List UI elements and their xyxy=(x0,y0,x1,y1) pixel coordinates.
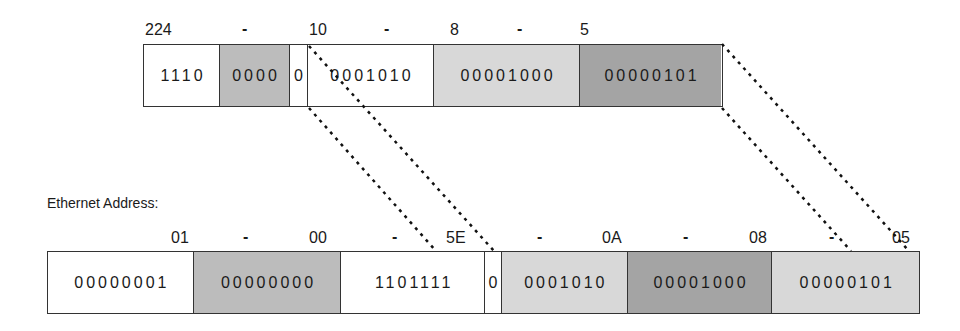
mapping-line-right-end xyxy=(722,44,909,251)
mapping-line-left-start xyxy=(309,108,436,251)
mapping-line-right-start xyxy=(722,108,851,251)
mapping-lines xyxy=(0,0,960,331)
mapping-line-left-end xyxy=(309,46,494,251)
